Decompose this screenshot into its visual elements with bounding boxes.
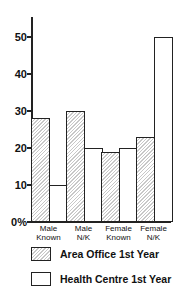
bar-female-known-area-office [101,152,120,222]
y-tick-label: 40 [0,68,27,80]
x-category-label: FemaleN/K [137,224,171,242]
legend-item-health-centre: Health Centre 1st Year [31,272,171,286]
hatched-swatch-icon [31,247,51,261]
bar-female-n-k-area-office [136,137,155,222]
y-tick-label: 50 [0,31,27,43]
bar-male-known-area-office [31,118,50,222]
y-tick-label: 10 [0,179,27,191]
legend-label: Area Office 1st Year [60,248,159,260]
plain-swatch-icon [31,272,51,286]
bar-female-n-k-health-centre [154,37,173,222]
y-tick-label: 30 [0,105,27,117]
bar-female-known-health-centre [119,148,138,222]
y-tick [27,73,32,75]
x-category-label: MaleN/K [67,224,101,242]
y-tick [27,110,32,112]
x-category-label: FemaleKnown [102,224,136,242]
bar-male-n-k-area-office [66,111,85,222]
y-tick-label: 20 [0,142,27,154]
y-tick [27,36,32,38]
bar-male-n-k-health-centre [84,148,103,222]
bar-male-known-health-centre [49,185,68,222]
y-tick-label: 0% [0,216,27,228]
legend-label: Health Centre 1st Year [60,273,171,285]
legend-item-area-office: Area Office 1st Year [31,247,159,261]
x-category-label: MaleKnown [32,224,66,242]
